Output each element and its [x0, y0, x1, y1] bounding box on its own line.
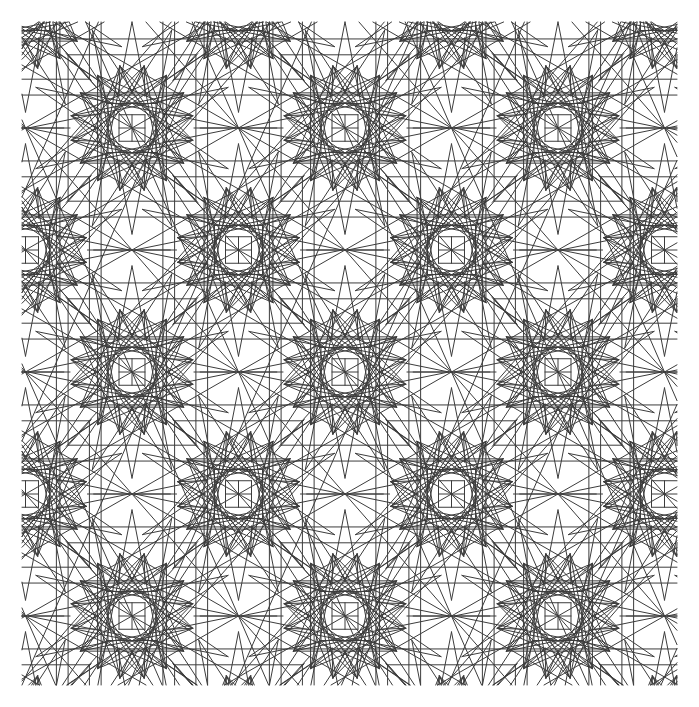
geometric-pattern-svg: [0, 0, 699, 707]
pattern-canvas: [0, 0, 699, 707]
